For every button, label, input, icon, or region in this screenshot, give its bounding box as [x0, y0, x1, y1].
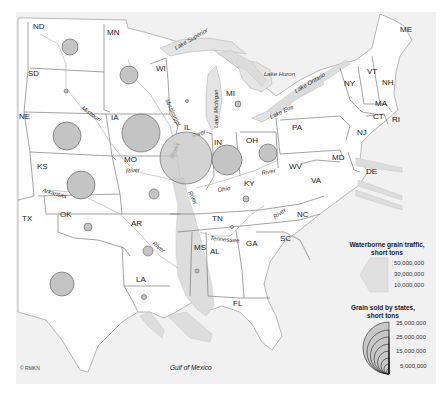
grain-circle-ar — [143, 246, 153, 256]
grain-circle-mn — [120, 66, 138, 84]
state-label-me: ME — [400, 25, 412, 34]
grain-circle-mi — [235, 101, 241, 107]
grain-circle-ia — [122, 114, 160, 152]
state-label-ms: MS — [194, 243, 206, 252]
legend-traffic-value-3: 10,000,000 — [394, 282, 425, 288]
grain-circle-ne — [53, 122, 81, 150]
state-label-mi: MI — [226, 89, 235, 98]
state-label-de: DE — [366, 167, 377, 176]
legend-sold-value-3: 15,000,000 — [396, 348, 427, 354]
state-label-ks: KS — [37, 162, 48, 171]
state-label-fl: FL — [233, 299, 243, 308]
state-label-nh: NH — [382, 78, 394, 87]
state-label-ct: CT — [373, 112, 384, 121]
state-label-ny: NY — [344, 79, 356, 88]
grain-circle-ks — [67, 171, 95, 199]
copyright-label: © RMKN — [20, 365, 40, 371]
state-label-in: IN — [214, 138, 222, 147]
state-label-pa: PA — [292, 123, 303, 132]
state-label-oh: OH — [246, 136, 258, 145]
legend-traffic-value-2: 30,000,000 — [394, 271, 425, 277]
state-label-md: MD — [332, 153, 345, 162]
state-label-ma: MA — [375, 99, 388, 108]
water-label: Lake Michigan — [213, 89, 219, 128]
grain-circle-nd — [62, 39, 78, 55]
water-label: Lake Huron — [264, 71, 296, 77]
state-label-wi: WI — [156, 64, 166, 73]
grain-circle-ok — [84, 223, 92, 231]
grain-circle-il — [160, 132, 212, 184]
grain-circle-ms — [195, 269, 199, 273]
grain-circle-in — [212, 145, 242, 175]
legend-sold-value-1: 35,000,000 — [396, 320, 427, 326]
state-label-tn: TN — [212, 214, 223, 223]
state-label-sc: SC — [280, 234, 291, 243]
legend-traffic-title-2: short tons — [371, 249, 403, 256]
state-label-ar: AR — [131, 219, 142, 228]
state-label-al: AL — [210, 247, 220, 256]
state-label-ne: NE — [19, 112, 30, 121]
legend-traffic-title-1: Waterborne grain traffic, — [349, 241, 424, 249]
state-label-ok: OK — [60, 210, 72, 219]
state-label-il: IL — [184, 123, 191, 132]
state-label-mo: MO — [124, 155, 137, 164]
legend-sold-title-2: short tons — [367, 312, 399, 319]
legend-traffic-value-1: 50,000,000 — [394, 260, 425, 266]
legend-sold-value-2: 25,000,000 — [396, 334, 427, 340]
state-label-ky: KY — [244, 179, 255, 188]
legend-sold-value-4: 5,000,000 — [400, 363, 427, 369]
grain-circle-oh — [259, 144, 277, 162]
grain-circle-mo — [149, 189, 159, 199]
gulf-of-mexico-label: Gulf of Mexico — [170, 364, 212, 371]
state-label-tx: TX — [22, 214, 33, 223]
state-label-ri: RI — [392, 115, 400, 124]
grain-circle-sd — [64, 89, 68, 93]
state-label-nj: NJ — [357, 128, 367, 137]
grain-traffic-map: NDMNSDWIMINEIAILINOHPANYVTNHMEMACTRINJMO… — [0, 0, 444, 394]
state-label-ga: GA — [246, 239, 258, 248]
grain-circle-la — [142, 295, 147, 300]
state-label-nd: ND — [33, 22, 45, 31]
state-label-mn: MN — [107, 28, 120, 37]
legend-sold-title-1: Grain sold by states, — [351, 304, 415, 312]
state-label-va: VA — [311, 176, 322, 185]
state-label-sd: SD — [28, 69, 39, 78]
grain-circle-tx — [50, 272, 74, 296]
state-label-ia: IA — [111, 113, 119, 122]
state-label-nc: NC — [297, 210, 309, 219]
grain-circle-wi — [186, 100, 189, 103]
state-label-wv: WV — [289, 162, 303, 171]
state-label-vt: VT — [367, 67, 377, 76]
state-label-la: LA — [136, 275, 146, 284]
grain-circle-tn — [231, 226, 234, 229]
grain-circle-ky — [243, 196, 249, 202]
